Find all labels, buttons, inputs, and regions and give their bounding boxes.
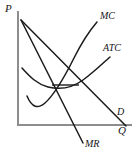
marginal-revenue-label: MR	[85, 139, 99, 149]
demand-label: D	[117, 107, 124, 117]
marginal-cost-label: MC	[100, 11, 115, 21]
price-axis-label: P	[5, 3, 12, 14]
demand-curve	[21, 20, 126, 126]
marginal-cost-curve	[27, 22, 97, 107]
quantity-axis-label: Q	[118, 125, 126, 136]
monopoly-diagram: P Q MC ATC D MR	[0, 0, 139, 158]
average-total-cost-label: ATC	[103, 43, 121, 53]
